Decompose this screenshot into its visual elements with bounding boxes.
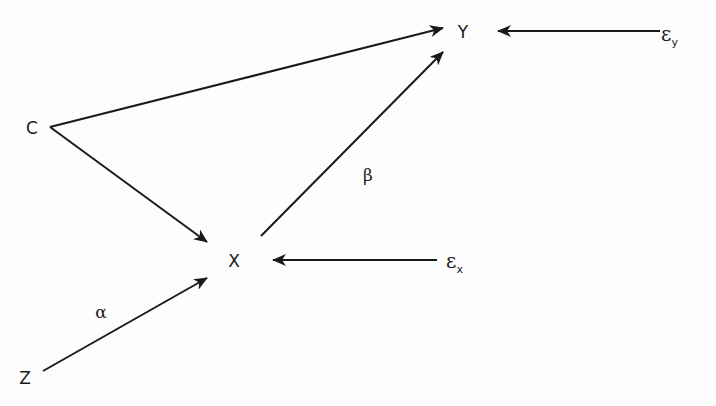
node-x-label: X xyxy=(228,253,240,270)
error-term-x-label: εx xyxy=(446,251,463,275)
epsilon-symbol: ε xyxy=(661,22,671,46)
coefficient-beta-label: β xyxy=(363,167,373,184)
arrow-x-to-y xyxy=(261,52,443,236)
edges-group xyxy=(43,28,660,371)
node-c-label: C xyxy=(26,120,38,137)
coefficient-alpha-label: α xyxy=(95,304,106,321)
arrow-z-to-x xyxy=(43,278,207,371)
node-y-label: Y xyxy=(458,24,468,41)
error-subscript-y: y xyxy=(671,36,678,49)
error-subscript-x: x xyxy=(456,263,463,276)
causal-diagram xyxy=(0,0,716,406)
error-term-y-label: εy xyxy=(661,24,678,48)
arrow-c-to-x xyxy=(50,127,207,242)
node-z-label: Z xyxy=(19,370,31,387)
epsilon-symbol: ε xyxy=(446,249,456,273)
